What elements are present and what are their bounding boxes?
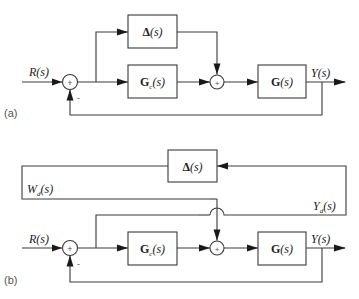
arrow-icon [247,245,258,252]
arrow-icon [67,90,74,101]
arrow-icon [199,79,210,86]
branch-to-delta-line-a [96,32,128,82]
arrow-icon [67,256,74,267]
plant-block-label-b: G(s) [271,242,293,256]
panel-label-b: (b) [4,274,17,286]
delta-to-sum2-line-a [177,32,217,75]
arrow-icon [117,79,128,86]
wd-label-b: Wd(s) [27,182,53,198]
arrow-icon [52,79,62,86]
sum1-minus-sign-b: - [77,259,80,269]
diagram-a: R(s) + - Δ(s) Gc(s) + G(s) [4,15,346,119]
diagram-b: Δ(s) Yd(s) Wd(s) R(s) + - Gc(s) [4,150,346,286]
sum2-plus-sign-a: + [215,79,220,88]
sum2-plus-sign-b: + [215,245,220,254]
arrow-icon [214,230,221,241]
sum1-plus-sign-b: + [67,244,72,254]
block-diagrams: R(s) + - Δ(s) Gc(s) + G(s) [0,0,359,299]
sum1-plus-sign-a: + [67,78,72,88]
panel-label-a: (a) [4,107,17,119]
plant-block-label-a: G(s) [271,75,293,89]
arrow-icon [117,29,128,36]
arrow-icon [217,163,228,170]
sum1-minus-sign-a: - [77,93,80,103]
arrow-icon [214,64,221,75]
delta-block-label-b: Δ(s) [182,160,202,174]
arrow-icon [334,79,346,86]
input-label-a: R(s) [28,65,49,79]
arrow-icon [247,79,258,86]
arrow-icon [52,245,62,252]
arrow-icon [117,245,128,252]
controller-block-label-a: Gc(s) [140,75,165,91]
input-label-b: R(s) [28,232,49,246]
arrow-icon [334,245,346,252]
controller-block-label-b: Gc(s) [140,242,165,258]
delta-block-label-a: Δ(s) [142,25,162,39]
yd-label-b: Yd(s) [313,199,336,215]
output-label-b: Y(s) [311,232,330,246]
output-label-a: Y(s) [311,66,330,80]
arrow-icon [199,245,210,252]
